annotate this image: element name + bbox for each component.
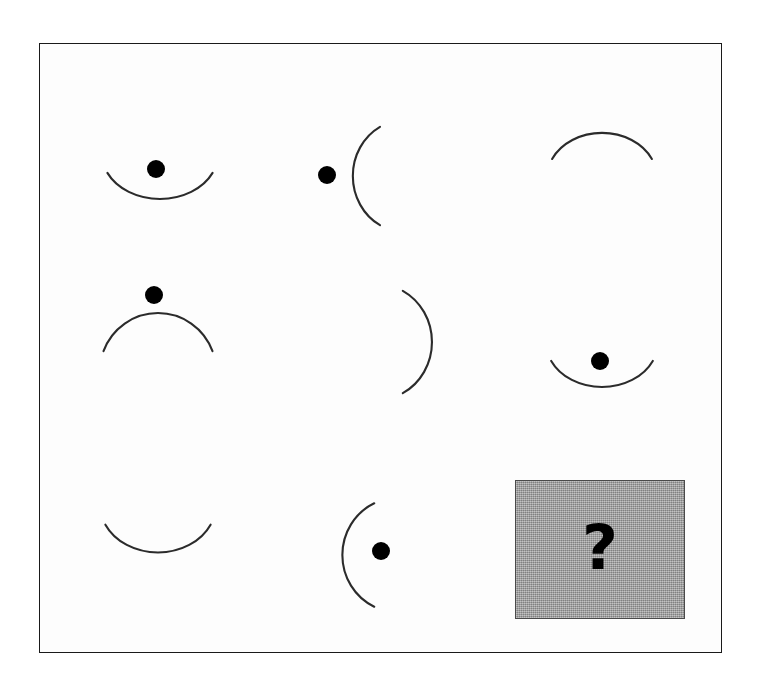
dot-marker — [591, 352, 609, 370]
matrix-cell-r1c3[interactable] — [540, 108, 680, 208]
matrix-cell-r1c1[interactable] — [90, 150, 230, 250]
matrix-cell-r3c1[interactable] — [90, 515, 230, 615]
dot-marker — [145, 286, 163, 304]
figure-r1c1 — [90, 150, 230, 250]
dot-marker — [372, 542, 390, 560]
figure-r1c2 — [300, 112, 440, 240]
matrix-cell-r2c2[interactable] — [355, 280, 495, 410]
matrix-cell-r2c1[interactable] — [90, 278, 230, 383]
arc-opening-right-icon — [353, 127, 380, 225]
dot-marker — [318, 166, 336, 184]
matrix-puzzle-root: ? — [0, 0, 769, 692]
question-mark-label: ? — [582, 517, 618, 579]
arc-opening-down-icon — [104, 313, 213, 351]
arc-opening-up-icon — [105, 525, 210, 553]
matrix-cell-r1c2[interactable] — [300, 112, 440, 240]
matrix-cell-r2c3[interactable] — [540, 338, 680, 438]
figure-r2c2 — [355, 280, 495, 410]
figure-r2c3 — [540, 338, 680, 438]
figure-r3c1 — [90, 515, 230, 615]
matrix-cell-r3c2[interactable] — [315, 495, 455, 623]
answer-cell-missing-tile[interactable]: ? — [515, 480, 685, 619]
figure-r2c1 — [90, 278, 230, 383]
arc-opening-down-icon — [552, 133, 652, 159]
arc-opening-left-icon — [403, 291, 432, 393]
figure-r1c3 — [540, 108, 680, 208]
arc-opening-right-icon — [342, 503, 374, 606]
figure-r3c2 — [315, 495, 455, 623]
dot-marker — [147, 160, 165, 178]
